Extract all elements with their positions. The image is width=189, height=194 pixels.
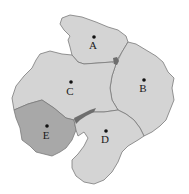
label-c: C (66, 85, 73, 97)
label-e: E (43, 129, 50, 141)
map: A B C D E (0, 0, 189, 194)
location-dot-icon (45, 124, 49, 128)
label-b: B (139, 82, 146, 94)
region-d[interactable] (72, 110, 144, 184)
label-d: D (101, 133, 109, 145)
label-a: A (89, 39, 97, 51)
location-dot-icon (69, 80, 73, 84)
